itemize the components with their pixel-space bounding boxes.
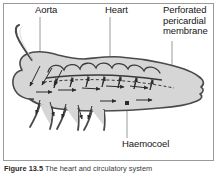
body-outline-group xyxy=(13,25,204,130)
figure-container: Aorta Heart Perforated pericardial membr… xyxy=(0,0,219,177)
leg-fill-3 xyxy=(92,110,104,126)
leg-2b xyxy=(78,109,79,130)
leg-3b xyxy=(104,110,105,130)
label-aorta: Aorta xyxy=(35,5,57,16)
figure-caption: Figure 13.5 The heart and circulatory sy… xyxy=(4,165,217,173)
label-pericardial-line-1: Perforated xyxy=(163,4,206,15)
label-pericardial-line-3: membrane xyxy=(163,25,208,36)
haemocoel-pointer-icon xyxy=(125,101,129,105)
leg-1 xyxy=(30,104,40,127)
label-heart: Heart xyxy=(105,5,128,16)
label-perforated-pericardial-membrane: Perforated pericardial membrane xyxy=(163,5,217,37)
label-pericardial-line-2: pericardial xyxy=(163,15,206,26)
figure-caption-number: Figure 13.5 xyxy=(4,165,43,173)
label-haemocoel: Haemocoel xyxy=(122,139,169,150)
leg-2 xyxy=(57,108,66,129)
leg-3 xyxy=(84,110,92,130)
figure-caption-text: The heart and circulatory system xyxy=(45,165,152,173)
body-outline xyxy=(20,52,203,111)
leg-fill-1 xyxy=(40,104,52,124)
